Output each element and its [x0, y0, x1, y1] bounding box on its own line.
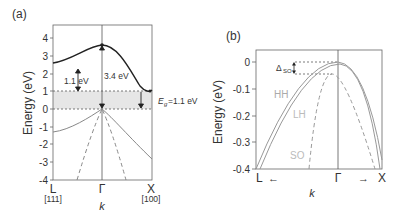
y-tick-labels-a: 4 3 2 1 0 -1 -2 -3 -4: [39, 33, 48, 186]
svg-text:Γ: Γ: [335, 171, 342, 185]
svg-text:-0.2: -0.2: [233, 111, 251, 122]
bandgap-value: =1.1 eV: [168, 96, 198, 106]
hh-label: HH: [274, 89, 288, 100]
svg-text:0: 0: [244, 57, 250, 68]
svg-text:[111]: [111]: [44, 194, 62, 204]
lh-band: [260, 64, 380, 169]
panel-b: (b) Δ SO HH LH SO 0 -0.1 -0.2: [211, 29, 386, 199]
x-tick-labels-a: L Γ X: [50, 182, 155, 196]
x-axis-label-a: k: [99, 200, 105, 212]
svg-text:X: X: [378, 171, 386, 185]
gap-label-gamma: 3.4 eV: [104, 71, 129, 81]
y-tick-labels-b: 0 -0.1 -0.2 -0.3 -0.4: [233, 57, 251, 175]
delta-so-subscript: SO: [283, 68, 292, 74]
band-structure-figure: (a) 1.1 eV 3.4 eV E g: [0, 0, 406, 219]
x-tick-labels-b: L ← Γ → X: [256, 171, 386, 185]
svg-text:←: ←: [268, 172, 279, 184]
svg-text:-0.3: -0.3: [233, 137, 251, 148]
delta-so-symbol: Δ: [276, 63, 282, 73]
svg-text:Γ: Γ: [99, 182, 106, 196]
svg-text:4: 4: [42, 33, 48, 44]
y-axis-label-b: Energy (eV): [211, 80, 225, 144]
svg-text:L: L: [256, 171, 263, 185]
panel-b-label: (b): [226, 29, 241, 43]
plot-b-frame: [256, 50, 382, 169]
svg-text:3: 3: [42, 51, 48, 62]
svg-text:-0.4: -0.4: [233, 164, 251, 175]
panel-a-label: (a): [12, 7, 27, 21]
svg-text:→: →: [358, 172, 369, 184]
cb-min-marker: [149, 90, 152, 93]
delta-so-arrow: [292, 62, 296, 74]
svg-text:2: 2: [42, 69, 48, 80]
so-band: [309, 74, 375, 169]
y-axis-label-a: Energy (eV): [21, 71, 35, 135]
x-axis-label-b: k: [309, 187, 315, 199]
valence-band: [53, 109, 152, 159]
lh-label: LH: [293, 109, 306, 120]
svg-text:1: 1: [42, 86, 48, 97]
so-label: SO: [290, 150, 305, 161]
svg-text:-0.1: -0.1: [233, 84, 251, 95]
svg-text:-3: -3: [39, 157, 48, 168]
svg-text:-4: -4: [39, 175, 48, 186]
gap-label-left: 1.1 eV: [64, 76, 89, 86]
panel-a: (a) 1.1 eV 3.4 eV E g: [12, 7, 198, 212]
svg-text:-1: -1: [39, 122, 48, 133]
svg-text:[100]: [100]: [142, 194, 161, 204]
svg-text:0: 0: [42, 104, 48, 115]
hh-band: [256, 62, 382, 169]
svg-text:-2: -2: [39, 139, 48, 150]
y-ticks-a: [50, 38, 53, 180]
y-ticks-b: [252, 62, 256, 169]
